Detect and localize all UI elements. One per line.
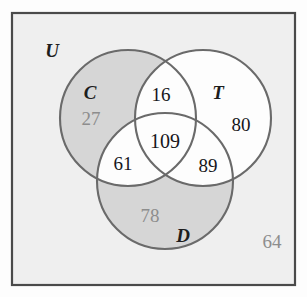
venn-diagram-figure: U C T D 27 16 80 109 61 89 78 64 bbox=[0, 0, 307, 297]
region-count-d-only: 78 bbox=[141, 205, 160, 226]
region-count-c-and-d: 61 bbox=[114, 153, 133, 174]
region-count-all-three: 109 bbox=[150, 130, 180, 152]
set-label-c: C bbox=[84, 82, 97, 103]
region-count-outside: 64 bbox=[263, 231, 283, 252]
venn-diagram-canvas: U C T D 27 16 80 109 61 89 78 64 bbox=[0, 0, 307, 297]
set-label-u: U bbox=[45, 40, 60, 61]
region-count-t-only: 80 bbox=[232, 114, 251, 135]
region-count-t-and-d: 89 bbox=[199, 155, 218, 176]
region-count-c-only: 27 bbox=[82, 108, 101, 129]
set-label-t: T bbox=[212, 82, 225, 103]
region-count-c-and-t: 16 bbox=[152, 84, 171, 105]
set-label-d: D bbox=[175, 225, 190, 246]
